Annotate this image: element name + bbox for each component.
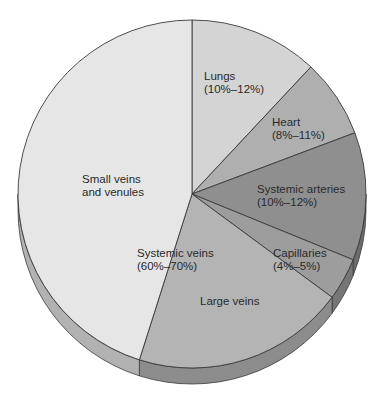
label-large-veins-name: Large veins: [200, 295, 259, 308]
label-systemic-arteries: Systemic arteries (10%–12%): [257, 183, 345, 209]
label-heart-range: (8%–11%): [272, 129, 325, 142]
label-systemic-veins-range: (60%–70%): [137, 260, 214, 273]
label-systemic-veins-name: Systemic veins: [137, 247, 214, 260]
label-arteries-name: Systemic arteries: [257, 183, 345, 196]
label-capillaries-name: Capillaries: [273, 247, 327, 260]
label-heart: Heart (8%–11%): [272, 116, 325, 142]
label-capillaries-range: (4%–5%): [273, 260, 327, 273]
label-small-veins-line1: Small veins: [82, 173, 144, 186]
label-systemic-veins: Systemic veins (60%–70%): [137, 247, 214, 273]
label-arteries-range: (10%–12%): [257, 196, 345, 209]
label-heart-name: Heart: [272, 116, 325, 129]
label-lungs: Lungs (10%–12%): [204, 70, 264, 96]
label-small-veins: Small veins and venules: [82, 173, 144, 199]
label-lungs-range: (10%–12%): [204, 83, 264, 96]
label-large-veins: Large veins: [200, 295, 259, 308]
label-capillaries: Capillaries (4%–5%): [273, 247, 327, 273]
label-lungs-name: Lungs: [204, 70, 264, 83]
label-small-veins-line2: and venules: [82, 186, 144, 199]
